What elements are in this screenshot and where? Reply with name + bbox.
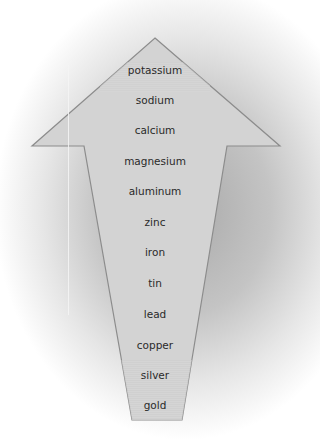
label-tin: tin	[105, 276, 205, 290]
label-calcium: calcium	[105, 123, 205, 137]
label-potassium: potassium	[105, 63, 205, 77]
label-gold: gold	[105, 398, 205, 412]
label-magnesium: magnesium	[105, 154, 205, 168]
label-silver: silver	[105, 368, 205, 382]
label-aluminum: aluminum	[105, 184, 205, 198]
label-iron: iron	[105, 245, 205, 259]
metal-labels: potassium sodium calcium magnesium alumi…	[0, 0, 308, 439]
label-sodium: sodium	[105, 93, 205, 107]
label-copper: copper	[105, 338, 205, 352]
label-lead: lead	[105, 307, 205, 321]
label-zinc: zinc	[105, 215, 205, 229]
